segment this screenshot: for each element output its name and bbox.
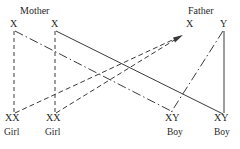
offspring-sex-2: Girl (45, 128, 60, 138)
allele-father-x: X (186, 19, 193, 29)
allele-mother-x2: X (51, 19, 58, 29)
parent-label-father: Father (188, 6, 214, 16)
offspring-genotype-2: XX (46, 113, 60, 123)
offspring-genotype-3: XY (165, 113, 179, 123)
edge-mother-x2-to-child4 (56, 31, 223, 114)
arrowhead-icon (173, 35, 183, 43)
genetics-diagram: Mother Father X X X Y XX Girl XX Girl XY… (0, 0, 240, 149)
edge-father-y-to-child3 (170, 31, 223, 114)
edge-child1-to-father-x (15, 36, 181, 113)
offspring-sex-1: Girl (4, 128, 19, 138)
diagram-canvas (0, 0, 240, 149)
edge-child2-to-father-x (56, 36, 181, 113)
offspring-genotype-1: XX (5, 113, 19, 123)
offspring-genotype-4: XY (214, 113, 228, 123)
allele-father-y: Y (220, 19, 227, 29)
edge-mother-x1-to-child3 (15, 31, 173, 112)
edge-group (14, 31, 224, 114)
offspring-sex-3: Boy (167, 128, 183, 138)
parent-label-mother: Mother (20, 6, 49, 16)
offspring-sex-4: Boy (214, 128, 230, 138)
allele-mother-x1: X (10, 19, 17, 29)
